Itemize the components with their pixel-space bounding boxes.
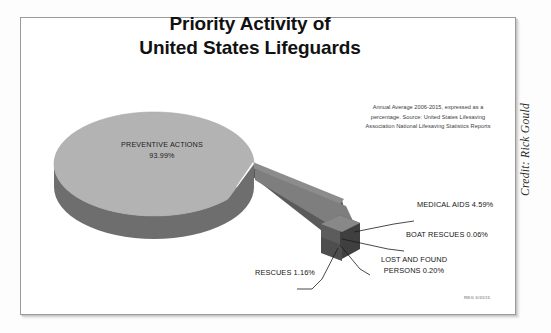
pie-slice-value: 93.99% (98, 150, 226, 161)
exploded-slices-group (253, 162, 360, 261)
callout-label-rescues: RESCUES 1.16% (255, 268, 315, 279)
callout-label-boat-rescues: BOAT RESCUES 0.06% (406, 230, 488, 241)
pie-slice-label-preventive-actions: PREVENTIVE ACTIONS 93.99% (98, 139, 226, 161)
callout-label-lost-and-found: LOST AND FOUND PERSONS 0.20% (371, 255, 457, 276)
callout-lost-line-1: LOST AND FOUND (371, 255, 457, 266)
footer-stamp: REG 6/2015 (464, 295, 490, 300)
callout-lost-line-2: PERSONS 0.20% (371, 266, 457, 277)
pie-top-face (54, 112, 254, 216)
photo-credit: Credit: Rick Gould (519, 103, 531, 196)
leader-line-medical-aids (354, 221, 414, 232)
pie-slice-name: PREVENTIVE ACTIONS (98, 139, 226, 150)
scanned-page-background: Priority Activity of United States Lifeg… (0, 0, 551, 333)
callout-label-medical-aids: MEDICAL AIDS 4.59% (417, 200, 493, 211)
